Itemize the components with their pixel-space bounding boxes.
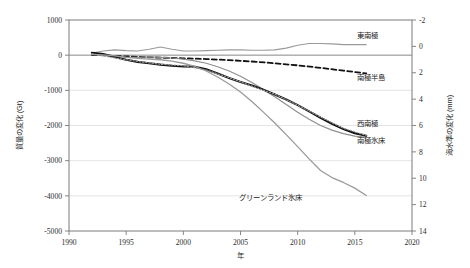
xtick-label-1995: 1995 — [119, 238, 134, 247]
ytick-label-right-0: 0 — [419, 42, 423, 51]
ytick-label-left--2000: -2000 — [44, 121, 62, 130]
series-label-5: グリーンランド氷床 — [239, 193, 303, 202]
x-axis-title: 年 — [237, 251, 245, 260]
chart-figure: 10000-1000-2000-3000-4000-5000-202468101… — [0, 0, 470, 268]
ytick-label-left--4000: -4000 — [44, 192, 62, 201]
ytick-label-left--1000: -1000 — [44, 86, 62, 95]
ytick-label-left--3000: -3000 — [44, 156, 62, 165]
xtick-label-1990: 1990 — [61, 238, 76, 247]
xtick-label-2005: 2005 — [233, 238, 248, 247]
ice-mass-change-line-chart: 10000-1000-2000-3000-4000-5000-202468101… — [0, 0, 470, 268]
series-label-0: 東南極 — [357, 31, 379, 40]
xtick-label-2015: 2015 — [347, 238, 362, 247]
series-label-2: 西南極 — [357, 119, 379, 128]
xtick-label-2020: 2020 — [404, 238, 419, 247]
ytick-label-right--2: -2 — [419, 16, 426, 25]
ytick-label-left--5000: -5000 — [44, 227, 62, 236]
ytick-label-right-14: 14 — [419, 227, 427, 236]
xtick-label-2000: 2000 — [176, 238, 191, 247]
ytick-label-right-6: 6 — [419, 121, 423, 130]
ytick-label-right-10: 10 — [419, 174, 427, 183]
ytick-label-left-1000: 1000 — [47, 16, 62, 25]
ytick-label-right-12: 12 — [419, 200, 427, 209]
chart-background — [0, 0, 470, 268]
ytick-label-left-0: 0 — [58, 51, 62, 60]
ytick-label-right-4: 4 — [419, 95, 423, 104]
y-axis-title-right: 海水準の変化 (mm) — [445, 95, 454, 156]
ytick-label-right-8: 8 — [419, 148, 423, 157]
series-label-1: 南極半島 — [357, 73, 385, 82]
series-label-3: 南極氷床 — [357, 136, 386, 145]
ytick-label-right-2: 2 — [419, 68, 423, 77]
y-axis-title-left: 質量の変化 (Gt) — [15, 101, 24, 151]
xtick-label-2010: 2010 — [290, 238, 305, 247]
